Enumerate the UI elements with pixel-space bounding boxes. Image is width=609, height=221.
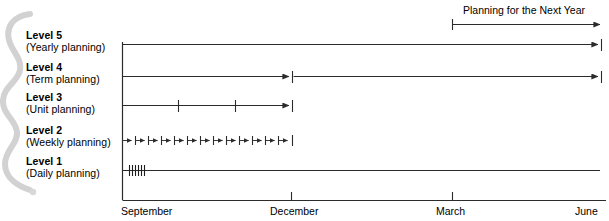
diagram-canvas: Level 5 (Yearly planning) Level 4 (Term … bbox=[0, 0, 609, 221]
axis-horizontal-baseline bbox=[123, 192, 607, 201]
next-year-annotation-arrow bbox=[453, 19, 601, 30]
track-level-1 bbox=[123, 165, 601, 176]
track-level-5 bbox=[123, 39, 602, 51]
track-level-4 bbox=[123, 71, 602, 83]
track-level-3 bbox=[123, 100, 293, 112]
timeline-vector-layer bbox=[0, 0, 609, 221]
track-level-2 bbox=[123, 135, 293, 146]
